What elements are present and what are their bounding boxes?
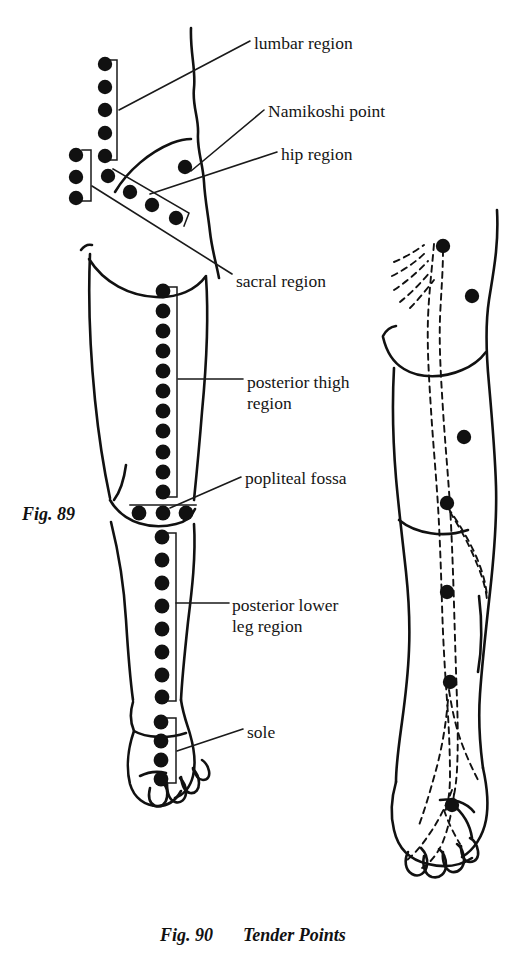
tender-point-dot	[154, 772, 169, 787]
label-hip-region: hip region	[281, 144, 352, 165]
tender-point-dot	[178, 160, 192, 174]
label-posterior-thigh-region: posterior thigh region	[247, 372, 350, 413]
tender-point-dot	[156, 384, 171, 399]
tender-point-dot	[98, 103, 112, 117]
tender-point-dot	[156, 424, 171, 439]
tender-point-dot	[457, 430, 471, 444]
tender-point-dot	[98, 126, 112, 140]
tender-point-dot	[440, 585, 454, 599]
tender-point-dot	[98, 80, 112, 94]
hip-region-points	[101, 169, 183, 225]
popliteal-fossa-points	[132, 506, 194, 521]
tender-point-dot	[98, 149, 112, 163]
tender-point-dot	[155, 599, 170, 614]
tender-point-dot	[156, 506, 171, 521]
tender-point-dot	[179, 506, 194, 521]
tender-point-dot	[155, 553, 170, 568]
tender-point-dot	[155, 530, 170, 545]
tender-point-dot	[156, 364, 171, 379]
caption-fig-89: Fig. 89	[22, 504, 75, 525]
posterior-thigh-points	[156, 284, 171, 500]
tender-point-dot	[155, 622, 170, 637]
tender-point-dot	[154, 734, 169, 749]
label-posterior-lower-leg-region: posterior lower leg region	[232, 595, 338, 636]
tender-point-dot	[155, 576, 170, 591]
label-namikoshi-point: Namikoshi point	[268, 101, 385, 122]
tender-point-dot	[156, 284, 171, 299]
tender-point-dot	[440, 496, 454, 510]
tender-point-dot	[169, 211, 183, 225]
caption-fig-90-title: Tender Points	[243, 925, 346, 946]
tender-point-dot	[156, 324, 171, 339]
namikoshi-point	[178, 160, 192, 174]
tender-point-dot	[69, 170, 83, 184]
label-lumbar-region: lumbar region	[254, 33, 353, 54]
tender-point-dot	[445, 798, 459, 812]
tender-point-dot	[156, 404, 171, 419]
tender-point-dot	[156, 304, 171, 319]
tender-point-dot	[443, 675, 457, 689]
tender-point-dot	[155, 690, 170, 705]
tender-point-dot	[156, 485, 171, 500]
sole-points	[154, 715, 169, 787]
tender-point-dot	[132, 506, 147, 521]
tender-point-dot	[436, 239, 450, 253]
tender-point-dot	[69, 148, 83, 162]
tender-point-dot	[123, 185, 137, 199]
tender-point-dot	[156, 344, 171, 359]
tender-point-dot	[101, 169, 115, 183]
fig90-tender-points	[436, 239, 479, 812]
tender-points-figure: lumbar region Namikoshi point hip region…	[0, 0, 529, 973]
tender-point-dot	[98, 57, 112, 71]
label-sacral-region: sacral region	[236, 271, 326, 292]
posterior-lower-leg-points	[155, 530, 170, 705]
tender-point-dot	[156, 445, 171, 460]
tender-point-dot	[155, 668, 170, 683]
tender-point-dot	[465, 289, 479, 303]
sacral-region-points	[69, 148, 83, 205]
label-popliteal-fossa: popliteal fossa	[245, 468, 347, 489]
caption-fig-90-number: Fig. 90	[160, 925, 213, 946]
lumbar-region-points	[98, 57, 112, 163]
tender-point-dot	[154, 753, 169, 768]
tender-point-dot	[155, 645, 170, 660]
tender-point-dot	[156, 465, 171, 480]
label-sole: sole	[247, 722, 275, 743]
tender-point-dot	[69, 191, 83, 205]
tender-point-dot	[154, 715, 169, 730]
tender-point-dot	[145, 198, 159, 212]
